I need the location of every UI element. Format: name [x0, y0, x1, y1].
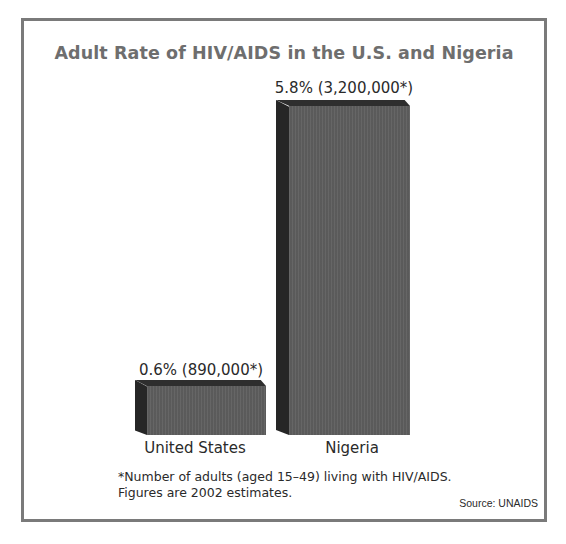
bar-side-face: [135, 380, 147, 435]
bar-front-face: [147, 386, 266, 435]
chart-frame: Adult Rate of HIV/AIDS in the U.S. and N…: [21, 18, 547, 522]
bar-united-states: [135, 380, 266, 435]
category-label-united-states: United States: [125, 439, 265, 457]
bar-value-label-nigeria: 5.8% (3,200,000*): [264, 79, 424, 97]
bar-value-label-united-states: 0.6% (890,000*): [126, 361, 276, 379]
category-label-nigeria: Nigeria: [282, 439, 422, 457]
footnote: *Number of adults (aged 15–49) living wi…: [118, 469, 452, 501]
footnote-line-2: Figures are 2002 estimates.: [118, 485, 452, 501]
source-label: Source: UNAIDS: [459, 497, 538, 509]
bar-nigeria: [276, 100, 410, 435]
bar-front-face: [289, 106, 410, 435]
footnote-line-1: *Number of adults (aged 15–49) living wi…: [118, 469, 452, 485]
chart-title: Adult Rate of HIV/AIDS in the U.S. and N…: [24, 43, 544, 63]
bar-side-face: [276, 100, 289, 435]
